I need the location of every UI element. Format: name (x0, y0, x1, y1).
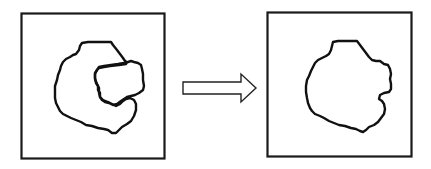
arrow-right-icon (183, 74, 256, 102)
panel-before (22, 14, 165, 159)
transition-arrow (183, 74, 256, 102)
diagram-canvas (0, 0, 431, 169)
panel-after (268, 13, 412, 157)
